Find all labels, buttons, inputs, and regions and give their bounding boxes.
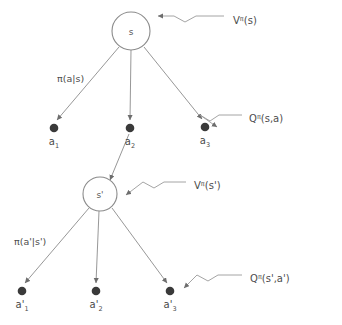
state-nodes: s s' (83, 12, 150, 211)
callout-label-q-pi-s-a: Qπ(s,a) (249, 113, 283, 124)
action-label-a3: a3 (200, 135, 210, 149)
action-label-a2: a2 (125, 136, 135, 150)
state-node-s-prime[interactable]: s' (83, 177, 117, 211)
action-dot-a3-prime[interactable] (166, 287, 175, 296)
action-dot-a2-prime[interactable] (92, 287, 101, 296)
state-label-s-prime: s' (96, 190, 103, 200)
action-node-a3-prime[interactable]: a'3 (163, 287, 176, 313)
state-node-s[interactable]: s (112, 12, 150, 50)
action-dot-a1[interactable] (50, 124, 59, 133)
callout-label-v-pi-s-prime: Vπ(s') (194, 180, 221, 191)
action-node-a2[interactable]: a2 (125, 124, 135, 150)
edge-s-to-a3 (144, 47, 202, 119)
action-node-a1[interactable]: a1 (49, 124, 59, 150)
callout-label-v-pi-s: Vπ(s) (233, 15, 257, 26)
action-dot-a2[interactable] (126, 124, 135, 133)
action-dot-a1-prime[interactable] (18, 287, 27, 296)
pointer-q-pi-s-prime-a-prime (184, 275, 242, 288)
action-label-a2-prime: a'2 (89, 299, 102, 313)
action-node-a3[interactable]: a3 (200, 123, 210, 149)
backup-diagram: s s' a1 a2 a3 a'1 (0, 0, 342, 325)
edge-s-prime-to-a2-prime (96, 211, 99, 283)
edge-s-prime-to-a3-prime (112, 208, 167, 283)
edge-label-policy-bottom: π(a'|s') (14, 236, 46, 247)
action-node-a2-prime[interactable]: a'2 (89, 287, 102, 313)
callout-labels: Vπ(s) Qπ(s,a) Vπ(s') Qπ(s',a') (194, 15, 290, 284)
callout-label-q-pi-s-prime-a-prime: Qπ(s',a') (250, 273, 290, 284)
pointer-v-pi-s-prime (126, 182, 186, 195)
edge-labels: π(a|s) π(a'|s') (14, 73, 84, 247)
callout-pointers (126, 16, 242, 288)
edge-label-policy-top: π(a|s) (57, 73, 84, 84)
action-label-a1-prime: a'1 (15, 299, 28, 313)
action-label-a3-prime: a'3 (163, 299, 176, 313)
action-label-a1: a1 (49, 136, 59, 150)
diagram-canvas: s s' a1 a2 a3 a'1 (0, 0, 342, 325)
action-node-a1-prime[interactable]: a'1 (15, 287, 28, 313)
state-label-s: s (129, 27, 134, 37)
edge-s-to-a2 (130, 50, 131, 120)
pointer-v-pi-s (158, 16, 224, 22)
action-nodes: a1 a2 a3 a'1 a'2 a'3 (15, 123, 210, 313)
action-dot-a3[interactable] (201, 123, 210, 132)
